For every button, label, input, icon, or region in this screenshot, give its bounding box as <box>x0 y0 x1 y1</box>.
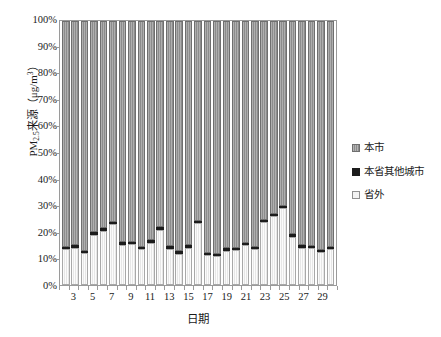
chart-figure: PM2.5来源（μg/m3） 0%10%20%30%40%50%60%70%80… <box>0 0 441 337</box>
plot-area <box>59 20 337 286</box>
bar-segment-shengwai <box>175 254 183 285</box>
y-tick-label: 60% <box>11 121 57 132</box>
x-tick-label: 29 <box>312 292 334 303</box>
bar-segment-shengwai <box>90 235 98 285</box>
bar-column[interactable] <box>62 21 70 285</box>
bar-segment-shengwai <box>232 250 240 285</box>
bar-column[interactable] <box>270 21 278 285</box>
bar-segment-shengwai <box>298 248 306 286</box>
legend-item-bencheng[interactable]: 本市 <box>352 143 424 154</box>
x-tick-mark <box>232 286 233 290</box>
bar-segment-bencheng <box>119 21 127 242</box>
legend-label-shengwai: 省外 <box>364 190 384 201</box>
bar-segment-bencheng <box>81 21 89 251</box>
bar-column[interactable] <box>147 21 155 285</box>
bar-segment-bencheng <box>156 21 164 227</box>
bar-column[interactable] <box>166 21 174 285</box>
bar-segment-shengwai <box>251 249 259 285</box>
bar-column[interactable] <box>204 21 212 285</box>
bar-column[interactable] <box>194 21 202 285</box>
chart-legend: 本市 本省其他城市 省外 <box>352 143 424 214</box>
y-tick-label: 50% <box>11 148 57 159</box>
bar-column[interactable] <box>242 21 250 285</box>
bar-column[interactable] <box>317 21 325 285</box>
bar-column[interactable] <box>279 21 287 285</box>
x-tick-mark <box>184 286 185 290</box>
x-tick-mark <box>212 286 213 290</box>
bar-segment-shengwai <box>156 230 164 285</box>
x-tick-mark <box>203 286 204 290</box>
x-tick-mark <box>260 286 261 290</box>
x-tick-mark <box>78 286 79 290</box>
bar-column[interactable] <box>289 21 297 285</box>
bar-column[interactable] <box>119 21 127 285</box>
bar-column[interactable] <box>156 21 164 285</box>
bar-segment-shengwai <box>71 248 79 286</box>
bar-column[interactable] <box>251 21 259 285</box>
bar-segment-bencheng <box>185 21 193 245</box>
y-tick-label: 90% <box>11 41 57 52</box>
bar-segment-bencheng <box>204 21 212 253</box>
bar-segment-shengwai <box>166 249 174 285</box>
bar-column[interactable] <box>223 21 231 285</box>
bar-column[interactable] <box>298 21 306 285</box>
bar-column[interactable] <box>185 21 193 285</box>
bar-group <box>60 21 336 285</box>
bar-segment-shengwai <box>109 224 117 285</box>
y-tick-label: 10% <box>11 254 57 265</box>
x-tick-mark <box>97 286 98 290</box>
bar-segment-shengwai <box>81 253 89 285</box>
x-tick-mark <box>241 286 242 290</box>
bar-segment-shengwai <box>317 252 325 285</box>
x-tick-mark <box>337 286 338 290</box>
y-tick-label: 20% <box>11 228 57 239</box>
legend-item-shengwai[interactable]: 省外 <box>352 190 424 201</box>
y-tick-label: 100% <box>11 15 57 26</box>
bar-segment-bencheng <box>71 21 79 245</box>
x-tick-mark <box>318 286 319 290</box>
bar-segment-bencheng <box>317 21 325 250</box>
bar-segment-bencheng <box>138 21 146 247</box>
y-tick-label: 40% <box>11 174 57 185</box>
bar-segment-shengwai <box>119 245 127 285</box>
bar-column[interactable] <box>100 21 108 285</box>
bar-segment-shengwai <box>289 237 297 285</box>
bar-column[interactable] <box>175 21 183 285</box>
bar-column[interactable] <box>232 21 240 285</box>
bar-segment-bencheng <box>223 21 231 248</box>
legend-label-bencheng: 本市 <box>364 143 384 154</box>
bar-column[interactable] <box>213 21 221 285</box>
bar-segment-shengwai <box>270 216 278 285</box>
bar-column[interactable] <box>327 21 335 285</box>
bar-segment-shengwai <box>260 222 268 285</box>
bar-column[interactable] <box>71 21 79 285</box>
x-tick-mark <box>59 286 60 290</box>
bar-segment-shengwai <box>308 248 316 285</box>
bar-segment-shengwai <box>327 249 335 285</box>
bar-segment-bencheng <box>327 21 335 247</box>
bar-segment-shengwai <box>279 208 287 285</box>
bar-segment-bencheng <box>279 21 287 206</box>
y-tick-label: 0% <box>11 281 57 292</box>
bar-column[interactable] <box>260 21 268 285</box>
bar-column[interactable] <box>81 21 89 285</box>
bar-column[interactable] <box>90 21 98 285</box>
legend-swatch-icon-shengwai <box>352 191 360 199</box>
x-tick-mark <box>136 286 137 290</box>
legend-label-bensheng-qita: 本省其他城市 <box>364 167 424 178</box>
bar-column[interactable] <box>138 21 146 285</box>
bar-column[interactable] <box>308 21 316 285</box>
bar-column[interactable] <box>128 21 136 285</box>
bar-column[interactable] <box>109 21 117 285</box>
bar-segment-shengwai <box>204 255 212 285</box>
y-tick-label: 30% <box>11 201 57 212</box>
y-tick-label: 80% <box>11 68 57 79</box>
bar-segment-shengwai <box>223 251 231 285</box>
bar-segment-bencheng <box>242 21 250 243</box>
bar-segment-bencheng <box>289 21 297 234</box>
x-axis-title: 日期 <box>59 310 337 326</box>
bar-segment-shengwai <box>213 256 221 285</box>
bar-segment-shengwai <box>147 243 155 285</box>
x-tick-mark <box>251 286 252 290</box>
legend-item-bensheng-qita[interactable]: 本省其他城市 <box>352 167 424 178</box>
